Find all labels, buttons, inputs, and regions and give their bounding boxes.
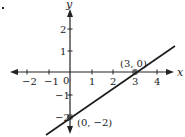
coordinate-plane-figure: x −2 −1 0 1 2 3 4 y <box>0 0 185 137</box>
x-tick-label: 4 <box>154 76 160 87</box>
x-tick-label: −1 <box>44 76 59 87</box>
graph-svg: x −2 −1 0 1 2 3 4 y <box>0 0 185 137</box>
x-tick-label: 3 <box>132 76 138 87</box>
x-axis-left-arrow-icon <box>10 69 18 75</box>
x-axis-right-arrow-icon <box>166 69 174 75</box>
point-label-3-0: (3, 0) <box>120 58 147 69</box>
y-tick-label: 2 <box>60 24 66 35</box>
origin-label: 0 <box>63 75 69 86</box>
y-tick-label: 1 <box>60 46 66 57</box>
x-axis-label: x <box>177 66 184 79</box>
point-label-0-neg2: (0, −2) <box>77 117 112 128</box>
y-axis-down-arrow-icon <box>67 126 73 134</box>
y-axis: y 2 1 −1 −2 <box>55 0 73 134</box>
x-tick-label: −2 <box>22 76 37 87</box>
y-axis-label: y <box>65 0 73 11</box>
y-tick-label: −2 <box>55 112 70 123</box>
y-tick-label: −1 <box>55 90 70 101</box>
x-tick-label: 1 <box>89 76 95 87</box>
x-tick-label: 2 <box>110 76 116 87</box>
x-axis: x −2 −1 0 1 2 3 4 <box>10 66 184 87</box>
bullet-dot <box>2 7 4 9</box>
